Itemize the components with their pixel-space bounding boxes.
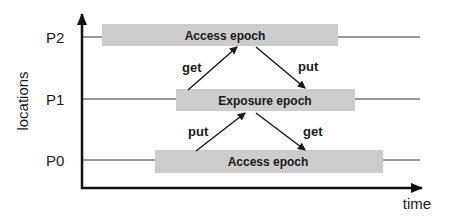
p0-label: P0	[46, 152, 64, 169]
get-label-top: get	[182, 60, 202, 75]
p2-epoch-label: Access epoch	[185, 29, 266, 43]
p1-label: P1	[46, 91, 64, 108]
x-axis-label: time	[403, 195, 431, 212]
get-arrow-p1-to-p0	[256, 113, 305, 150]
put-label-top: put	[298, 59, 319, 74]
get-label-bottom: get	[303, 124, 323, 139]
epoch-diagram: P2 P1 P0 locations time Access epoch Exp…	[0, 0, 450, 223]
p0-epoch-label: Access epoch	[228, 155, 309, 169]
p2-label: P2	[46, 29, 64, 46]
put-label-bottom: put	[188, 124, 209, 139]
p1-epoch-label: Exposure epoch	[218, 94, 311, 108]
y-axis-label: locations	[14, 71, 31, 130]
